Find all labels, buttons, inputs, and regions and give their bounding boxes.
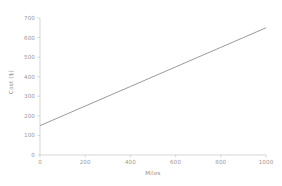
x-tick-label: 400 (125, 159, 136, 165)
chart-figure: 700 600 500 400 300 200 100 0 (0, 0, 282, 186)
y-tick-label: 400 (24, 74, 35, 80)
x-axis-ticks (40, 155, 266, 158)
x-axis-tick-labels: 0 200 400 600 800 1000 (40, 159, 266, 169)
y-tick-label: 500 (24, 54, 35, 60)
x-tick-label: 0 (38, 159, 42, 165)
plot-canvas (40, 18, 266, 155)
data-series-line (40, 28, 266, 126)
y-axis-tick-labels: 700 600 500 400 300 200 100 0 (0, 18, 35, 155)
y-tick-label: 300 (24, 93, 35, 99)
x-axis-title: Miles (40, 170, 266, 176)
y-tick-label: 0 (31, 152, 35, 158)
x-tick-label: 800 (215, 159, 226, 165)
x-tick-label: 600 (170, 159, 181, 165)
plot-area (40, 18, 266, 155)
y-tick-label: 700 (24, 15, 35, 21)
y-axis-ticks (38, 18, 41, 155)
x-tick-label: 1000 (259, 159, 274, 165)
y-tick-label: 100 (24, 132, 35, 138)
y-tick-label: 600 (24, 35, 35, 41)
y-axis-title: Cost ($) (8, 52, 14, 112)
y-tick-label: 200 (24, 113, 35, 119)
x-tick-label: 200 (80, 159, 91, 165)
